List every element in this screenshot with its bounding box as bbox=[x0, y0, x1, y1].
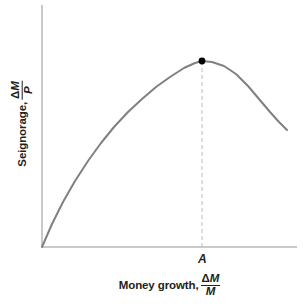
seignorage-curve bbox=[42, 61, 287, 247]
chart-plot-area bbox=[0, 0, 303, 306]
peak-point-marker bbox=[199, 58, 206, 65]
chart-figure: Seignorage, ΔM P Money growth, ΔM M A bbox=[0, 0, 303, 306]
